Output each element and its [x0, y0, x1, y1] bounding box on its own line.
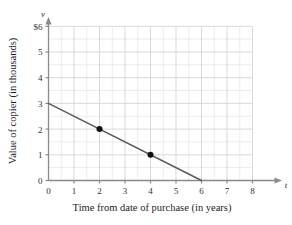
- y-axis-tick-label: 5: [38, 47, 43, 57]
- x-axis-tick-label: 3: [123, 186, 128, 196]
- x-axis-tick-label: 5: [174, 186, 179, 196]
- x-axis-tick-label: 7: [225, 186, 230, 196]
- data-point-marker: [97, 126, 103, 132]
- chart-container: 012345$6 012345678 v t Time from date of…: [0, 0, 292, 225]
- x-axis-tick-label: 6: [199, 186, 204, 196]
- chart-background: [0, 0, 292, 225]
- y-axis-tick-label: 3: [38, 99, 43, 109]
- x-axis-tick-label: 4: [148, 186, 153, 196]
- x-axis-tick-label: 8: [250, 186, 255, 196]
- x-axis-title: Time from date of purchase (in years): [73, 202, 232, 214]
- depreciation-line-chart: 012345$6 012345678 v t Time from date of…: [0, 0, 292, 225]
- y-axis-tick-label: $6: [34, 22, 44, 32]
- y-axis-tick-label: 4: [38, 73, 43, 83]
- x-axis-tick-label: 1: [72, 186, 77, 196]
- y-axis-variable-label: v: [41, 9, 45, 19]
- y-axis-title: Value of copier (in thousands): [7, 37, 19, 164]
- y-axis-tick-label: 0: [38, 176, 43, 186]
- y-axis-tick-label: 2: [38, 125, 43, 135]
- x-axis-tick-label: 2: [97, 186, 102, 196]
- y-axis-tick-label: 1: [38, 150, 43, 160]
- data-point-marker: [148, 152, 154, 158]
- x-axis-tick-label: 0: [46, 186, 51, 196]
